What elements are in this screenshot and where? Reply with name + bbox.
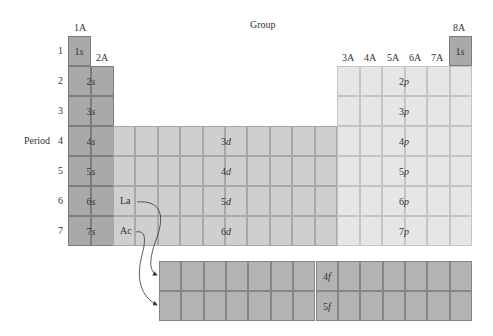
lanthanide-actinide-arrows bbox=[0, 0, 493, 336]
arrow-ac-to-5f bbox=[136, 232, 157, 305]
arrow-la-to-4f bbox=[137, 202, 161, 275]
